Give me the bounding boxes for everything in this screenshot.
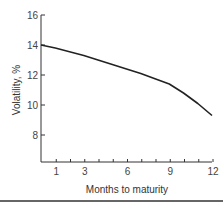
x-tick-label: 1 <box>53 166 59 177</box>
volatility-line <box>41 45 212 116</box>
y-axis: 810121416 <box>27 10 45 163</box>
y-tick-label: 10 <box>27 100 39 111</box>
y-axis-label: Volatility, % <box>11 65 22 115</box>
y-tick-label: 12 <box>27 70 39 81</box>
y-tick-label: 16 <box>27 10 39 21</box>
data-series <box>41 45 212 116</box>
x-tick-label: 12 <box>207 166 219 177</box>
volatility-chart: 810121416 136912 Volatility, % Months to… <box>0 0 223 207</box>
x-tick-label: 9 <box>167 166 173 177</box>
x-axis-label: Months to maturity <box>86 184 168 195</box>
y-tick-label: 14 <box>27 40 39 51</box>
y-tick-label: 8 <box>32 130 38 141</box>
x-tick-label: 3 <box>82 166 88 177</box>
x-tick-label: 6 <box>125 166 131 177</box>
x-axis: 136912 <box>41 159 219 177</box>
